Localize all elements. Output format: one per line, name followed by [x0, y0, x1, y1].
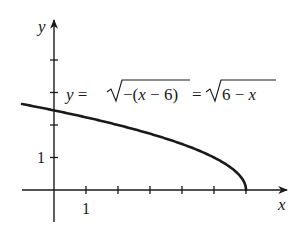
- x-axis-label: x: [277, 195, 286, 214]
- sqrt-curve: [22, 104, 246, 190]
- svg-text:6 − x: 6 − x: [222, 85, 257, 104]
- svg-text:y =: y =: [64, 85, 87, 104]
- equation-annotation: y = −(x − 6) = 6 − x: [64, 80, 276, 104]
- svg-text:−(x − 6): −(x − 6): [123, 85, 178, 104]
- x-tick-label-1: 1: [82, 200, 90, 217]
- y-tick-label-1: 1: [37, 149, 45, 166]
- y-axis-label: y: [36, 17, 46, 36]
- svg-text:=: =: [192, 85, 202, 104]
- function-graph: y x 1 1 y = −(x − 6) = 6 − x: [0, 0, 297, 230]
